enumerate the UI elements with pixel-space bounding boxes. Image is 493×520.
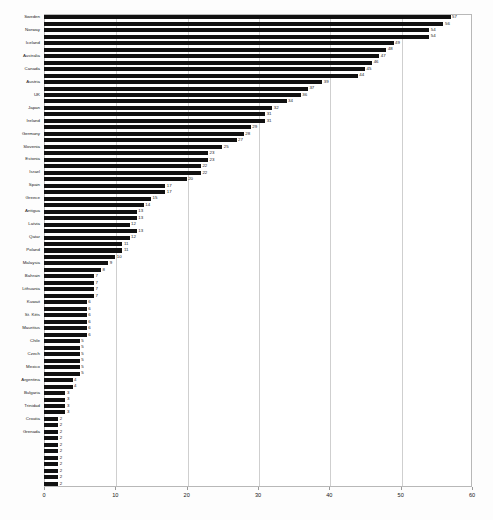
bar[interactable]: [44, 313, 87, 317]
bar[interactable]: [44, 320, 87, 324]
bar-row[interactable]: 14: [44, 203, 472, 207]
bar[interactable]: [44, 145, 222, 149]
bar-row[interactable]: 48: [44, 48, 472, 52]
bar[interactable]: [44, 119, 265, 123]
bar-row[interactable]: 39: [44, 80, 472, 84]
bar-row[interactable]: 5: [44, 359, 472, 363]
bar-row[interactable]: 54: [44, 35, 472, 39]
bar[interactable]: [44, 229, 137, 233]
bar[interactable]: [44, 184, 165, 188]
bar[interactable]: [44, 138, 237, 142]
bar[interactable]: [44, 346, 80, 350]
bar-row[interactable]: 2: [44, 482, 472, 486]
bar-row[interactable]: 47: [44, 54, 472, 58]
bar[interactable]: [44, 268, 101, 272]
bar[interactable]: [44, 171, 201, 175]
bar[interactable]: [44, 80, 322, 84]
bar-row[interactable]: 7: [44, 274, 472, 278]
bar[interactable]: [44, 99, 287, 103]
bar[interactable]: [44, 28, 429, 32]
bar-row[interactable]: 5: [44, 372, 472, 376]
bar-row[interactable]: 25: [44, 145, 472, 149]
bar[interactable]: [44, 216, 137, 220]
bar-row[interactable]: 44: [44, 74, 472, 78]
bar[interactable]: [44, 372, 80, 376]
bar[interactable]: [44, 242, 122, 246]
bar[interactable]: [44, 248, 122, 252]
bar-row[interactable]: 2: [44, 462, 472, 466]
bar[interactable]: [44, 339, 80, 343]
bar-row[interactable]: 22: [44, 171, 472, 175]
bar[interactable]: [44, 197, 151, 201]
bar[interactable]: [44, 48, 386, 52]
bar-row[interactable]: 2: [44, 443, 472, 447]
bar[interactable]: [44, 223, 130, 227]
bar-row[interactable]: 13: [44, 210, 472, 214]
bar-row[interactable]: 15: [44, 197, 472, 201]
bar-row[interactable]: 5: [44, 346, 472, 350]
bar[interactable]: [44, 410, 65, 414]
bar-row[interactable]: 2: [44, 430, 472, 434]
bar[interactable]: [44, 300, 87, 304]
bar-row[interactable]: 11: [44, 242, 472, 246]
bar[interactable]: [44, 67, 365, 71]
bar-row[interactable]: 27: [44, 138, 472, 142]
bar[interactable]: [44, 93, 301, 97]
bar[interactable]: [44, 190, 165, 194]
bar[interactable]: [44, 436, 58, 440]
bar[interactable]: [44, 210, 137, 214]
bar-row[interactable]: 31: [44, 112, 472, 116]
bar[interactable]: [44, 469, 58, 473]
bar-row[interactable]: 56: [44, 22, 472, 26]
bar[interactable]: [44, 326, 87, 330]
bar-row[interactable]: 10: [44, 255, 472, 259]
bar[interactable]: [44, 482, 58, 486]
bar-row[interactable]: 2: [44, 417, 472, 421]
bar[interactable]: [44, 281, 94, 285]
bar-row[interactable]: 23: [44, 158, 472, 162]
bar-row[interactable]: 6: [44, 313, 472, 317]
bar-row[interactable]: 6: [44, 333, 472, 337]
bar[interactable]: [44, 261, 108, 265]
bar-row[interactable]: 57: [44, 15, 472, 19]
bar[interactable]: [44, 255, 115, 259]
bar[interactable]: [44, 274, 94, 278]
bar-row[interactable]: 49: [44, 41, 472, 45]
bar-row[interactable]: 2: [44, 475, 472, 479]
bar[interactable]: [44, 378, 73, 382]
bar-row[interactable]: 22: [44, 164, 472, 168]
bar-row[interactable]: 13: [44, 229, 472, 233]
bar-row[interactable]: 7: [44, 281, 472, 285]
bar-row[interactable]: 6: [44, 300, 472, 304]
bar[interactable]: [44, 203, 144, 207]
bar[interactable]: [44, 41, 394, 45]
bar-row[interactable]: 32: [44, 106, 472, 110]
bar[interactable]: [44, 158, 208, 162]
bar-row[interactable]: 7: [44, 287, 472, 291]
bar[interactable]: [44, 365, 80, 369]
bar-row[interactable]: 9: [44, 261, 472, 265]
bar-row[interactable]: 11: [44, 248, 472, 252]
bar[interactable]: [44, 423, 58, 427]
bar-row[interactable]: 34: [44, 99, 472, 103]
bar[interactable]: [44, 54, 379, 58]
bar[interactable]: [44, 132, 244, 136]
bar[interactable]: [44, 456, 58, 460]
bar[interactable]: [44, 443, 58, 447]
bar-row[interactable]: 3: [44, 404, 472, 408]
bar[interactable]: [44, 385, 73, 389]
bar[interactable]: [44, 236, 130, 240]
bar[interactable]: [44, 164, 201, 168]
bar-row[interactable]: 6: [44, 307, 472, 311]
bar[interactable]: [44, 404, 65, 408]
bar[interactable]: [44, 22, 443, 26]
bar[interactable]: [44, 294, 94, 298]
bar[interactable]: [44, 125, 251, 129]
bar[interactable]: [44, 391, 65, 395]
bar[interactable]: [44, 15, 451, 19]
bar-row[interactable]: 2: [44, 436, 472, 440]
bar-row[interactable]: 20: [44, 177, 472, 181]
bar-row[interactable]: 6: [44, 320, 472, 324]
bar-row[interactable]: 54: [44, 28, 472, 32]
bar-row[interactable]: 13: [44, 216, 472, 220]
